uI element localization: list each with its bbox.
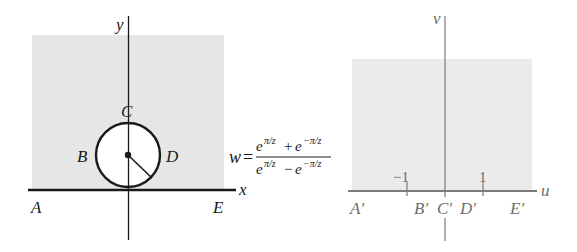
u-axis-label: u xyxy=(541,181,550,200)
num-term2-exp: −π/z xyxy=(303,135,322,146)
den-op: − xyxy=(284,161,292,177)
tick-label-neg-one: −1 xyxy=(393,169,409,185)
num-term1-base: e xyxy=(256,138,263,154)
num-op: + xyxy=(284,138,292,154)
formula-lhs: w xyxy=(229,147,241,167)
num-term2-base: e xyxy=(295,138,302,154)
den-term2-base: e xyxy=(295,161,302,177)
formula-equals: = xyxy=(243,147,253,167)
point-e-prime-label: E′ xyxy=(509,199,524,218)
point-a-label: A xyxy=(30,198,42,217)
point-a-prime-label: A′ xyxy=(349,199,364,218)
den-term1-exp: π/z xyxy=(264,158,276,169)
point-c-label: C xyxy=(121,102,133,121)
z-plane: y x C B D A E xyxy=(28,15,247,240)
den-term1-base: e xyxy=(256,161,263,177)
point-c-prime-label: C′ xyxy=(437,199,452,218)
w-plane: v u −1 1 A′ B′ C′ D′ E′ xyxy=(348,9,550,241)
point-d-label: D xyxy=(165,147,179,166)
num-term1-exp: π/z xyxy=(264,135,276,146)
center-dot xyxy=(125,152,131,158)
point-b-label: B xyxy=(77,147,88,166)
point-e-label: E xyxy=(212,198,224,217)
y-axis-label: y xyxy=(114,15,124,34)
x-axis-label: x xyxy=(238,180,247,199)
point-d-prime-label: D′ xyxy=(459,199,476,218)
conformal-map-diagram: y x C B D A E w = e π/z + e −π/z e π/z −… xyxy=(0,0,577,252)
w-plane-shaded-region xyxy=(352,59,532,191)
den-term2-exp: −π/z xyxy=(303,158,322,169)
tick-label-pos-one: 1 xyxy=(479,169,487,185)
point-b-prime-label: B′ xyxy=(414,199,428,218)
v-axis-label: v xyxy=(433,9,441,28)
mapping-formula: w = e π/z + e −π/z e π/z − e −π/z xyxy=(229,135,331,177)
